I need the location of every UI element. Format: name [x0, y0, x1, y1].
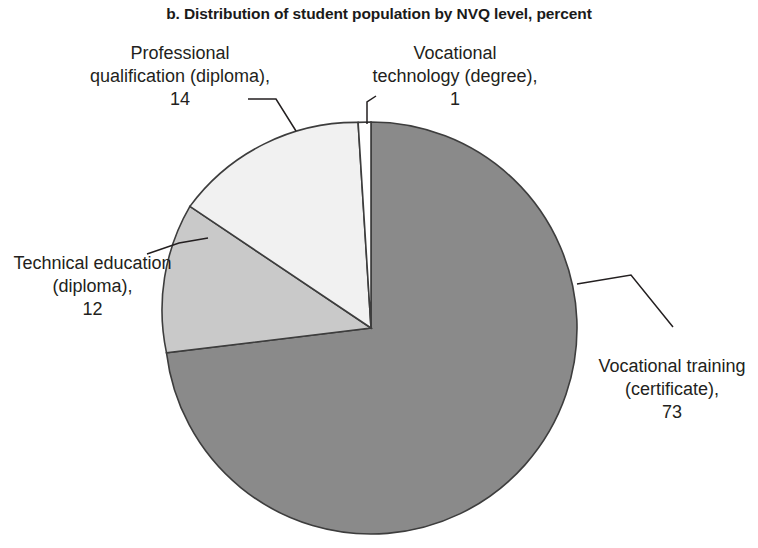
slice-label-professional-qualification: Professional qualification (diploma), 14: [55, 42, 305, 111]
slice-label-vocational-technology: Vocational technology (degree), 1: [330, 42, 580, 111]
slice-label-technical-education: Technical education (diploma), 12: [0, 252, 185, 321]
chart-page: b. Distribution of student population by…: [0, 0, 758, 548]
leader-line-vocational-training: [577, 275, 673, 327]
slice-label-vocational-training: Vocational training (certificate), 73: [586, 355, 758, 424]
